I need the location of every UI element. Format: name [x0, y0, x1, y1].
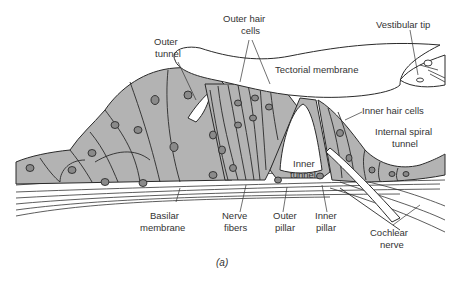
label-internal-spiral-tunnel-1: Internal spiral — [375, 126, 432, 137]
label-tectorial-membrane: Tectorial membrane — [275, 64, 358, 75]
label-outer-tunnel-1: Outer — [154, 36, 178, 47]
label-outer-tunnel-2: tunnel — [155, 48, 181, 59]
label-cochlear-nerve-2: nerve — [380, 239, 404, 250]
label-internal-spiral-tunnel-2: tunnel — [392, 138, 418, 149]
label-inner-tunnel-1: Inner — [293, 158, 315, 169]
label-cochlear-nerve-1: Cochlear — [370, 227, 408, 238]
label-inner-pillar-2: pillar — [316, 222, 336, 233]
label-basilar-membrane-1: Basilar — [150, 210, 179, 221]
figure-caption: (a) — [216, 257, 228, 268]
label-inner-pillar-1: Inner — [315, 210, 337, 221]
label-outer-pillar-1: Outer — [273, 210, 297, 221]
outer-supporting-cells — [16, 68, 232, 187]
label-basilar-membrane-2: membrane — [140, 222, 185, 233]
label-outer-hair-cells-2: cells — [241, 25, 260, 36]
label-outer-pillar-2: pillar — [275, 222, 295, 233]
label-nerve-fibers-1: Nerve — [222, 210, 247, 221]
label-nerve-fibers-2: fibers — [224, 222, 247, 233]
label-inner-hair-cells: Inner hair cells — [362, 105, 424, 116]
label-inner-tunnel-2: tunnel — [290, 169, 316, 180]
organ-of-corti-diagram: Outer tunnel Outer hair cells Vestibular… — [0, 0, 460, 281]
label-vestibular-tip: Vestibular tip — [376, 19, 430, 30]
label-outer-hair-cells-1: Outer hair — [223, 13, 265, 24]
